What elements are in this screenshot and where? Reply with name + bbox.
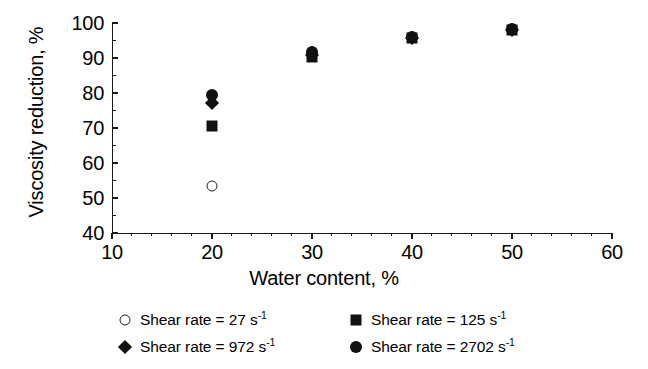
x-tick-label: 50 — [489, 242, 535, 262]
legend-label: Shear rate = 2702 s-1 — [371, 338, 515, 355]
legend-entry[interactable]: Shear rate = 27 s-1 — [118, 311, 349, 328]
x-tick-major — [411, 233, 412, 239]
x-tick-label: 30 — [289, 242, 335, 262]
y-tick-label: 100 — [4, 13, 104, 33]
y-tick-minor — [112, 180, 116, 181]
legend-label: Shear rate = 125 s-1 — [371, 311, 506, 328]
x-tick-minor — [571, 233, 572, 237]
y-tick-label: 80 — [4, 83, 104, 103]
x-tick-minor — [191, 233, 192, 237]
x-tick-minor — [491, 233, 492, 237]
scatter-chart-figure: 405060708090100 102030405060 Viscosity r… — [0, 0, 648, 369]
legend-label: Shear rate = 27 s-1 — [140, 311, 267, 328]
x-tick-label: 60 — [589, 242, 635, 262]
y-tick-major — [112, 92, 118, 93]
x-tick-major — [611, 233, 612, 239]
data-point-circle-filled — [306, 46, 318, 58]
legend-entry[interactable]: Shear rate = 2702 s-1 — [349, 338, 588, 355]
legend-marker-circle-open-icon — [118, 313, 131, 326]
legend-label: Shear rate = 972 s-1 — [140, 338, 275, 355]
x-tick-minor — [551, 233, 552, 237]
y-axis-title: Viscosity reduction, % — [24, 12, 48, 232]
data-point-circle-filled — [406, 31, 418, 43]
y-tick-major — [112, 127, 118, 128]
data-point-circle-filled — [506, 23, 518, 35]
y-axis-title-text: Viscosity reduction, % — [25, 27, 47, 218]
x-tick-major — [311, 233, 312, 239]
x-tick-minor — [351, 233, 352, 237]
y-tick-minor — [112, 40, 116, 41]
x-tick-minor — [371, 233, 372, 237]
x-tick-minor — [391, 233, 392, 237]
data-point-circle-open — [207, 181, 218, 192]
x-tick-minor — [431, 233, 432, 237]
x-tick-minor — [531, 233, 532, 237]
legend-marker-square-filled-icon — [349, 313, 362, 326]
x-tick-minor — [131, 233, 132, 237]
y-tick-label: 70 — [4, 118, 104, 138]
x-axis-title-text: Water content, % — [249, 267, 398, 289]
y-tick-label: 40 — [4, 223, 104, 243]
y-tick-major — [112, 232, 118, 233]
y-tick-label: 50 — [4, 188, 104, 208]
x-axis-line — [112, 233, 613, 234]
x-tick-minor — [291, 233, 292, 237]
x-tick-minor — [331, 233, 332, 237]
y-tick-minor — [112, 145, 116, 146]
legend-entry[interactable]: Shear rate = 125 s-1 — [349, 311, 588, 328]
x-axis-title: Water content, % — [0, 266, 648, 290]
x-tick-minor — [591, 233, 592, 237]
data-point-square-filled — [207, 120, 218, 131]
x-tick-minor — [231, 233, 232, 237]
legend-marker-diamond-filled-icon — [118, 340, 131, 353]
y-tick-minor — [112, 215, 116, 216]
y-tick-label: 90 — [4, 48, 104, 68]
x-tick-label: 20 — [189, 242, 235, 262]
y-tick-label: 60 — [4, 153, 104, 173]
legend-entry[interactable]: Shear rate = 972 s-1 — [118, 338, 349, 355]
y-tick-minor — [112, 110, 116, 111]
y-tick-minor — [112, 75, 116, 76]
legend-marker-circle-filled-icon — [349, 340, 362, 353]
x-tick-minor — [471, 233, 472, 237]
x-tick-minor — [271, 233, 272, 237]
x-tick-major — [111, 233, 112, 239]
x-tick-label: 40 — [389, 242, 435, 262]
x-tick-label: 10 — [89, 242, 135, 262]
y-tick-major — [112, 197, 118, 198]
data-point-circle-filled — [206, 89, 218, 101]
chart-legend: Shear rate = 27 s-1Shear rate = 125 s-1S… — [118, 306, 588, 360]
x-tick-minor — [451, 233, 452, 237]
x-tick-major — [211, 233, 212, 239]
x-tick-minor — [171, 233, 172, 237]
x-tick-minor — [251, 233, 252, 237]
y-tick-major — [112, 57, 118, 58]
y-tick-major — [112, 162, 118, 163]
x-tick-minor — [151, 233, 152, 237]
y-tick-major — [112, 22, 118, 23]
x-tick-major — [511, 233, 512, 239]
